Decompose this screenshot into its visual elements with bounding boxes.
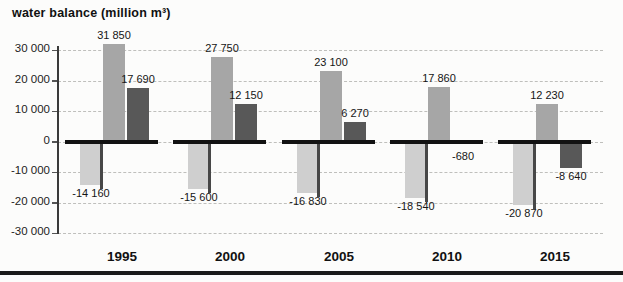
bar-value-label: 23 100 [291,56,371,68]
x-axis-label: 2010 [402,249,492,264]
bottom-rule [0,271,623,275]
y-axis-label: -10 000 [2,164,50,176]
y-axis-label: 20 000 [2,73,50,85]
x-axis-label: 2000 [185,249,275,264]
x-axis-label: 2015 [510,249,600,264]
bar-medium-gray-bar [320,71,342,141]
bar-value-label: 17 860 [399,72,479,84]
y-axis-label: 30 000 [2,42,50,54]
bar-value-label: -15 600 [159,191,239,203]
bar-value-label: 6 270 [315,107,395,119]
bar-dark-gray-bar [235,104,257,141]
bar-dark-gray-bar [127,88,149,142]
zero-line-segment [65,140,158,144]
water-balance-chart: water balance (million m³) 30 00020 0001… [0,0,623,282]
bar-value-label: -20 870 [484,207,564,219]
bar-light-gray-bar [188,142,210,190]
gridline [58,50,603,51]
bar-value-label: -16 830 [268,195,348,207]
zero-line-segment [390,140,483,144]
bar-dark-gray-bar [560,142,582,168]
bar-light-gray-bar [297,142,319,193]
bar-medium-gray-bar [536,104,558,141]
bar-medium-gray-bar [428,87,450,141]
bar-value-label: 31 850 [74,29,154,41]
zero-line-segment [173,140,266,144]
bar-value-label: 17 690 [98,73,178,85]
gridline [58,233,603,234]
x-axis-label: 2005 [294,249,384,264]
chart-title: water balance (million m³) [12,6,171,20]
bar-value-label: 12 150 [206,89,286,101]
plot-area: 30 00020 00010 0000-10 000-20 000-30 000… [58,46,604,237]
y-axis-label: -30 000 [2,225,50,237]
y-axis-label: -20 000 [2,195,50,207]
x-axis-label: 1995 [77,249,167,264]
bar-value-label: 27 750 [182,42,262,54]
y-axis-label: 10 000 [2,103,50,115]
bar-value-label: -18 540 [376,200,456,212]
bar-light-gray-bar [80,142,102,185]
zero-line-segment [282,140,375,144]
bar-value-label: -680 [423,150,503,162]
zero-line-segment [498,140,591,144]
y-axis-line [57,46,59,234]
bar-value-label: -14 160 [51,187,131,199]
bar-medium-gray-bar [103,44,125,141]
bar-value-label: 12 230 [507,89,587,101]
bar-value-label: -8 640 [531,170,611,182]
y-axis-label: 0 [2,134,50,146]
